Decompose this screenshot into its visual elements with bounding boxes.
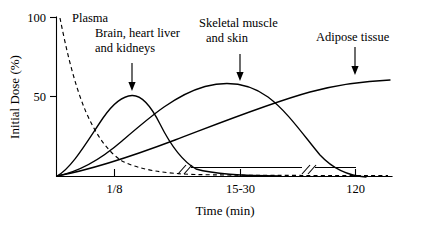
y-tick-label-100: 100	[27, 11, 46, 25]
label-muscle-line2: and skin	[206, 31, 249, 45]
x-tick-label-120: 120	[346, 182, 365, 196]
label-brain-line2: and kidneys	[95, 41, 155, 55]
pharmacokinetics-tissue-distribution-chart: Plasma Brain, heart liver and kidneys Sk…	[0, 0, 432, 227]
label-brain-line1: Brain, heart liver	[95, 26, 181, 40]
x-axis-title: Time (min)	[195, 203, 254, 218]
x-tick-label-15-30: 15-30	[226, 182, 255, 196]
chart-canvas: Plasma Brain, heart liver and kidneys Sk…	[0, 0, 432, 227]
x-tick-label-eighth: 1/8	[107, 182, 123, 196]
label-muscle-line1: Skeletal muscle	[199, 16, 278, 30]
y-axis-title: Initial Dose (%)	[7, 55, 22, 139]
label-adipose: Adipose tissue	[316, 30, 390, 44]
label-plasma: Plasma	[72, 11, 109, 25]
y-tick-label-50: 50	[34, 90, 47, 104]
